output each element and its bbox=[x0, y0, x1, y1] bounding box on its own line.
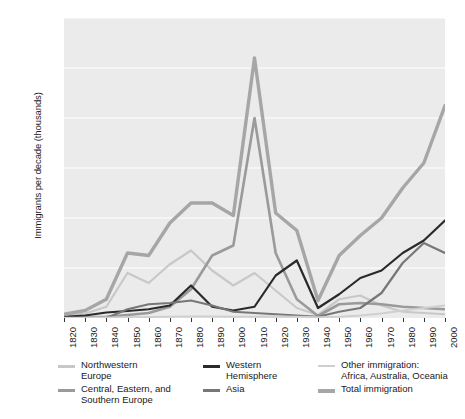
x-axis-tick-label: 1940 bbox=[322, 327, 332, 348]
x-axis-tick-mark bbox=[128, 318, 129, 322]
legend-swatch-icon bbox=[203, 389, 220, 392]
legend-label: Central, Eastern, and Southern Europe bbox=[81, 384, 171, 405]
x-axis-tick-label: 1880 bbox=[195, 327, 205, 348]
series-line-6 bbox=[64, 58, 445, 314]
x-axis-tick-mark bbox=[424, 318, 425, 322]
chart-legend: Northwestern EuropeCentral, Eastern, and… bbox=[58, 360, 458, 416]
chart-canvas bbox=[64, 18, 445, 318]
legend-column: Northwestern EuropeCentral, Eastern, and… bbox=[58, 360, 198, 408]
legend-label: Northwestern Europe bbox=[81, 360, 138, 381]
x-axis-tick-label: 1980 bbox=[407, 327, 417, 348]
legend-swatch-icon bbox=[58, 389, 75, 392]
legend-item[interactable]: Total immigration bbox=[318, 384, 465, 395]
x-axis-tick-label: 1830 bbox=[89, 327, 99, 348]
x-axis-tick-mark bbox=[191, 318, 192, 322]
x-axis-tick-label: 1960 bbox=[364, 327, 374, 348]
x-axis-tick-mark bbox=[445, 318, 446, 322]
x-axis-tick-label: 1870 bbox=[174, 327, 184, 348]
legend-column: Other immigration: Africa, Australia, Oc… bbox=[318, 360, 465, 398]
x-axis-tick-mark bbox=[255, 318, 256, 322]
x-axis-tick-label: 1840 bbox=[110, 327, 120, 348]
x-axis-tick-label: 1920 bbox=[280, 327, 290, 348]
x-axis-tick-mark bbox=[85, 318, 86, 322]
x-axis-tick-label: 1850 bbox=[132, 327, 142, 348]
legend-swatch-icon bbox=[318, 365, 335, 367]
x-axis-tick-mark bbox=[360, 318, 361, 322]
x-axis-tick-mark bbox=[149, 318, 150, 322]
legend-swatch-icon bbox=[203, 365, 220, 368]
x-axis-tick-label: 1950 bbox=[343, 327, 353, 348]
x-axis-tick-label: 1820 bbox=[68, 327, 78, 348]
x-axis-tick-mark bbox=[64, 318, 65, 322]
legend-label: Other immigration: Africa, Australia, Oc… bbox=[341, 360, 448, 381]
legend-item[interactable]: Asia bbox=[203, 384, 313, 395]
plot-area bbox=[64, 18, 445, 318]
x-axis-tick-mark bbox=[382, 318, 383, 322]
legend-swatch-icon bbox=[318, 389, 335, 393]
legend-label: Asia bbox=[226, 384, 244, 395]
x-axis-tick-mark bbox=[297, 318, 298, 322]
x-axis-tick-mark bbox=[339, 318, 340, 322]
x-axis-tick-label: 2000 bbox=[449, 327, 459, 348]
legend-column: Western HemisphereAsia bbox=[203, 360, 313, 398]
x-axis-tick-label: 1910 bbox=[259, 327, 269, 348]
x-axis-tick-mark bbox=[212, 318, 213, 322]
x-axis-tick-label: 1900 bbox=[237, 327, 247, 348]
x-axis-tick-mark bbox=[276, 318, 277, 322]
x-axis-tick-mark bbox=[170, 318, 171, 322]
legend-label: Total immigration bbox=[341, 384, 413, 395]
immigration-line-chart: Immigrants per decade (thousands) 200400… bbox=[0, 0, 465, 419]
x-axis-tick-label: 1860 bbox=[153, 327, 163, 348]
x-axis-tick-label: 1990 bbox=[428, 327, 438, 348]
legend-item[interactable]: Northwestern Europe bbox=[58, 360, 198, 381]
x-axis-tick-mark bbox=[403, 318, 404, 322]
x-axis-tick-label: 1970 bbox=[386, 327, 396, 348]
legend-item[interactable]: Other immigration: Africa, Australia, Oc… bbox=[318, 360, 465, 381]
x-axis-tick-label: 1890 bbox=[216, 327, 226, 348]
x-axis-tick-label: 1930 bbox=[301, 327, 311, 348]
legend-item[interactable]: Central, Eastern, and Southern Europe bbox=[58, 384, 198, 405]
legend-label: Western Hemisphere bbox=[226, 360, 277, 381]
legend-item[interactable]: Western Hemisphere bbox=[203, 360, 313, 381]
x-axis-tick-mark bbox=[106, 318, 107, 322]
x-axis-tick-mark bbox=[233, 318, 234, 322]
legend-swatch-icon bbox=[58, 365, 75, 368]
x-axis-tick-mark bbox=[318, 318, 319, 322]
